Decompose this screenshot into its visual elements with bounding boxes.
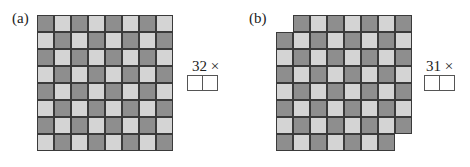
dark-square [88,100,105,117]
dark-square [378,32,395,49]
dark-square [276,32,293,49]
light-square [361,134,378,151]
light-square [293,100,310,117]
light-square [139,32,156,49]
light-square [361,32,378,49]
dark-square [88,134,105,151]
light-square [37,32,54,49]
light-square [293,134,310,151]
light-square [105,66,122,83]
dark-square [156,100,173,117]
light-square [378,49,395,66]
dark-square [139,15,156,32]
light-square [71,100,88,117]
answer-boxes-b [424,75,455,91]
dark-square [293,117,310,134]
panel-label-b: (b) [249,11,267,26]
light-square [139,66,156,83]
light-square [88,49,105,66]
light-square [71,66,88,83]
dark-square [361,15,378,32]
light-square [395,32,412,49]
light-square [54,49,71,66]
dark-square [37,83,54,100]
dark-square [310,134,327,151]
panel-label-a: (a) [12,11,29,26]
light-square [88,15,105,32]
light-square [122,15,139,32]
light-square [327,100,344,117]
answer-boxes-a [187,75,218,91]
dark-square [395,15,412,32]
dark-square [361,49,378,66]
dark-square [344,32,361,49]
light-square [327,66,344,83]
dark-square [378,134,395,151]
light-square [310,83,327,100]
light-square [344,117,361,134]
dark-square [37,15,54,32]
light-square [122,117,139,134]
light-square [378,83,395,100]
dark-square [88,66,105,83]
answer-box[interactable] [202,75,218,91]
dark-square [395,49,412,66]
dark-square [344,66,361,83]
dark-square [293,83,310,100]
dark-square [327,49,344,66]
dark-square [54,134,71,151]
light-square [344,83,361,100]
light-square [361,66,378,83]
light-square [156,83,173,100]
light-square [310,49,327,66]
dark-square [293,15,310,32]
dark-square [37,117,54,134]
light-square [344,15,361,32]
dark-square [361,83,378,100]
dark-square [37,49,54,66]
dark-square [156,66,173,83]
dark-square [54,66,71,83]
dark-square [276,66,293,83]
light-square [378,15,395,32]
dark-square [71,117,88,134]
light-square [293,66,310,83]
dark-square [71,15,88,32]
light-square [395,100,412,117]
dark-square [156,134,173,151]
light-square [71,134,88,151]
dark-square [122,100,139,117]
light-square [88,83,105,100]
light-square [37,134,54,151]
answer-box[interactable] [439,75,455,91]
light-square [327,32,344,49]
answer-box[interactable] [187,75,203,91]
light-square [71,32,88,49]
light-square [105,100,122,117]
dark-square [395,117,412,134]
light-square [310,15,327,32]
dark-square [378,66,395,83]
dark-square [105,15,122,32]
light-square [327,134,344,151]
answer-box[interactable] [424,75,440,91]
light-square [54,117,71,134]
multiplication-prompt-b: 31 × [426,59,453,74]
dark-square [310,66,327,83]
light-square [276,117,293,134]
light-square [378,117,395,134]
light-square [361,100,378,117]
light-square [37,66,54,83]
light-square [139,100,156,117]
light-square [344,49,361,66]
dark-square [122,134,139,151]
dark-square [139,49,156,66]
light-square [88,117,105,134]
dark-square [276,100,293,117]
light-square [139,134,156,151]
multiplication-prompt-a: 32 × [192,59,219,74]
light-square [310,117,327,134]
light-square [276,49,293,66]
light-square [54,15,71,32]
dark-square [276,134,293,151]
